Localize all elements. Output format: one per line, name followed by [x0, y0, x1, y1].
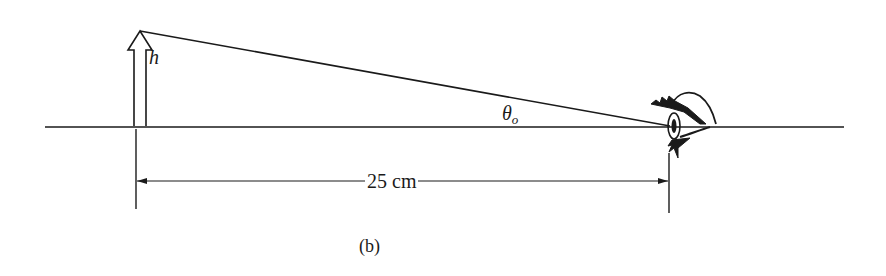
angle-label: θo [502, 102, 518, 128]
object-height-label: h [149, 46, 159, 69]
dimension-arrowhead-left-icon [137, 178, 147, 184]
angle-symbol: θ [502, 102, 512, 124]
figure-caption: (b) [359, 236, 380, 257]
dimension-arrowhead-right-icon [658, 178, 668, 184]
eye-icon [651, 93, 716, 158]
angle-subscript: o [512, 112, 519, 127]
diagram-canvas [0, 0, 886, 276]
sight-line [140, 31, 670, 126]
distance-label: 25 cm [365, 170, 418, 193]
